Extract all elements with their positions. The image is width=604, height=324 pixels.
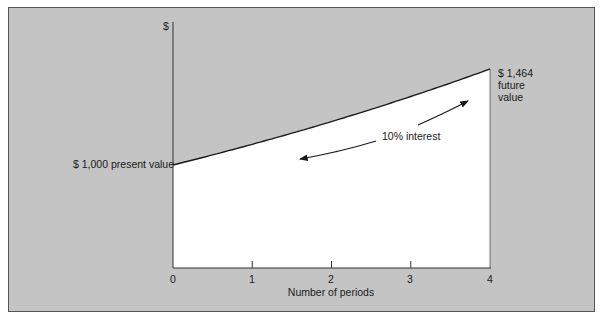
- future-value-word2: value: [498, 91, 523, 103]
- area-under-curve: [173, 69, 490, 268]
- x-tick-1: 1: [249, 273, 255, 285]
- present-value-label: $ 1,000 present value: [73, 158, 174, 170]
- future-value-amount: $ 1,464: [498, 67, 533, 79]
- x-tick-3: 3: [407, 273, 413, 285]
- x-tick-0: 0: [170, 273, 176, 285]
- x-axis-label: Number of periods: [288, 286, 374, 298]
- y-axis-label: $: [163, 20, 169, 32]
- x-tick-4: 4: [487, 273, 493, 285]
- x-tick-2: 2: [328, 273, 334, 285]
- interest-label: 10% interest: [382, 130, 440, 142]
- future-value-word: future: [498, 79, 525, 91]
